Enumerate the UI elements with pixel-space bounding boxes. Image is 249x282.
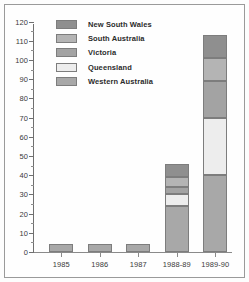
bar-1986[interactable] xyxy=(88,244,112,252)
y-tick-0 xyxy=(29,252,34,253)
bar-segment-western-australia[interactable] xyxy=(203,175,227,252)
x-tick-label-1985: 1985 xyxy=(53,260,70,269)
y-minor-tick-65 xyxy=(31,127,34,128)
bar-segment-queensland[interactable] xyxy=(165,194,189,206)
y-tick-label-40: 40 xyxy=(19,171,28,180)
bar-1989-90[interactable] xyxy=(203,35,227,252)
legend-swatch-icon xyxy=(56,34,77,43)
legend-item-label: Queensland xyxy=(88,63,132,72)
x-axis xyxy=(33,252,232,253)
y-tick-label-0: 0 xyxy=(24,248,28,257)
chart-container: 0102030405060708090100110120 19851986198… xyxy=(0,0,249,282)
legend-item-new-south-wales[interactable]: New South Wales xyxy=(56,17,186,31)
y-minor-tick-15 xyxy=(31,223,34,224)
bar-segment-western-australia[interactable] xyxy=(126,244,150,252)
y-minor-tick-45 xyxy=(31,166,34,167)
bar-1987[interactable] xyxy=(126,244,150,252)
x-tick-1989-90 xyxy=(215,253,216,257)
y-tick-label-70: 70 xyxy=(19,113,28,122)
legend-swatch-icon xyxy=(56,77,77,86)
legend-item-south-australia[interactable]: South Australia xyxy=(56,31,186,45)
y-tick-40 xyxy=(29,175,34,176)
y-minor-tick-5 xyxy=(31,242,34,243)
y-tick-label-60: 60 xyxy=(19,132,28,141)
y-minor-tick-25 xyxy=(31,204,34,205)
bar-segment-new-south-wales[interactable] xyxy=(203,35,227,58)
legend-item-western-australia[interactable]: Western Australia xyxy=(56,75,186,89)
y-tick-label-100: 100 xyxy=(15,56,28,65)
legend-swatch-icon xyxy=(56,63,77,72)
y-tick-50 xyxy=(29,156,34,157)
y-tick-10 xyxy=(29,233,34,234)
y-tick-100 xyxy=(29,60,34,61)
legend-item-victoria[interactable]: Victoria xyxy=(56,46,186,60)
legend-swatch-icon xyxy=(56,48,77,57)
x-tick-1986 xyxy=(100,253,101,257)
chart-legend: New South WalesSouth AustraliaVictoriaQu… xyxy=(56,17,186,89)
y-tick-label-30: 30 xyxy=(19,190,28,199)
bar-segment-south-australia[interactable] xyxy=(165,177,189,187)
x-tick-label-1987: 1987 xyxy=(130,260,147,269)
x-tick-label-1986: 1986 xyxy=(91,260,108,269)
y-tick-120 xyxy=(29,22,34,23)
y-tick-label-50: 50 xyxy=(19,152,28,161)
y-tick-label-90: 90 xyxy=(19,75,28,84)
y-axis xyxy=(33,24,34,253)
bar-segment-victoria[interactable] xyxy=(165,187,189,195)
y-tick-80 xyxy=(29,98,34,99)
y-minor-tick-105 xyxy=(31,50,34,51)
y-tick-label-10: 10 xyxy=(19,228,28,237)
y-tick-90 xyxy=(29,79,34,80)
y-minor-tick-55 xyxy=(31,146,34,147)
y-minor-tick-95 xyxy=(31,70,34,71)
y-minor-tick-115 xyxy=(31,31,34,32)
y-tick-label-120: 120 xyxy=(15,17,28,26)
bar-segment-south-australia[interactable] xyxy=(203,58,227,81)
y-tick-60 xyxy=(29,137,34,138)
x-tick-1988-89 xyxy=(177,253,178,257)
legend-swatch-icon xyxy=(56,20,77,29)
bar-segment-new-south-wales[interactable] xyxy=(165,164,189,177)
x-tick-1987 xyxy=(138,253,139,257)
bar-segment-queensland[interactable] xyxy=(203,118,227,176)
bar-segment-western-australia[interactable] xyxy=(49,244,73,252)
y-minor-tick-85 xyxy=(31,89,34,90)
y-tick-30 xyxy=(29,194,34,195)
x-tick-label-1989-90: 1989-90 xyxy=(201,260,229,269)
legend-item-queensland[interactable]: Queensland xyxy=(56,60,186,74)
legend-item-label: South Australia xyxy=(88,34,145,43)
bar-segment-western-australia[interactable] xyxy=(88,244,112,252)
bar-1988-89[interactable] xyxy=(165,164,189,252)
x-tick-label-1988-89: 1988-89 xyxy=(163,260,191,269)
y-minor-tick-75 xyxy=(31,108,34,109)
bar-segment-western-australia[interactable] xyxy=(165,206,189,252)
y-minor-tick-35 xyxy=(31,185,34,186)
legend-item-label: Victoria xyxy=(88,48,116,57)
legend-item-label: New South Wales xyxy=(88,20,152,29)
y-tick-label-110: 110 xyxy=(16,36,28,45)
legend-item-label: Western Australia xyxy=(88,77,153,86)
y-tick-70 xyxy=(29,118,34,119)
y-tick-110 xyxy=(29,41,34,42)
bar-1985[interactable] xyxy=(49,244,73,252)
x-tick-1985 xyxy=(61,253,62,257)
bar-segment-victoria[interactable] xyxy=(203,81,227,117)
y-tick-label-20: 20 xyxy=(19,209,28,218)
y-tick-20 xyxy=(29,214,34,215)
y-tick-label-80: 80 xyxy=(19,94,28,103)
